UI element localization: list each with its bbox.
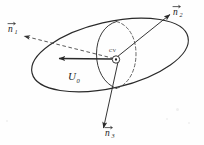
velocity-label: U 0 [68,70,81,84]
normal-2-vector [117,15,170,58]
normal-2-label: n 2 [173,5,183,18]
normal-2-label-base: n [173,7,178,17]
normal-3-label-base: n [105,128,110,138]
cv-point-marker [112,56,119,63]
normal-1-label: n 1 [8,22,18,35]
velocity-arrow [59,59,112,60]
normal-3-label-subscript: 3 [111,132,115,139]
outer-ellipse [25,5,196,105]
control-volume-diagram: n 1 n 2 n 3 U 0 cv [0,0,204,145]
normal-1-label-base: n [8,24,13,34]
normal-2-label-subscript: 2 [180,11,183,18]
cv-label: cv [109,46,117,54]
normal-3-vector [104,62,119,128]
normal-1-label-subscript: 1 [15,28,18,35]
cv-label-text: cv [109,46,117,54]
figure-root: n 1 n 2 n 3 U 0 cv [0,0,204,145]
velocity-label-subscript: 0 [77,77,81,84]
normal-3-label: n 3 [105,126,115,139]
